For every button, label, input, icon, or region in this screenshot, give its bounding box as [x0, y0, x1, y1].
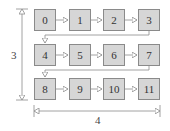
- grid-cell: 2: [103, 9, 125, 31]
- vertical-dimension-line: [16, 9, 28, 100]
- rows-dimension-label: 3: [11, 49, 17, 61]
- cols-dimension-label: 4: [95, 114, 101, 126]
- grid-cell: 6: [103, 44, 125, 66]
- wrap-arrow-7-to-8: [45, 66, 149, 77]
- grid-cell: 0: [34, 9, 56, 31]
- grid-cell: 9: [69, 78, 91, 100]
- grid-cell: 7: [138, 44, 160, 66]
- grid-cell: 5: [69, 44, 91, 66]
- wrap-arrow-3-to-4: [45, 31, 149, 43]
- grid-cell: 1: [69, 9, 91, 31]
- grid-cell: 8: [34, 78, 56, 100]
- row-major-grid-diagram: 0 1 2 3 4 5 6 7 8 9 10 11 3 4: [0, 0, 170, 131]
- grid-cell: 10: [103, 78, 125, 100]
- grid-cell: 4: [34, 44, 56, 66]
- grid-cell: 3: [138, 9, 160, 31]
- grid-cell: 11: [138, 78, 160, 100]
